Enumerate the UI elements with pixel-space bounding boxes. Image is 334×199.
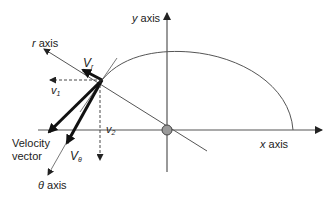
v2-label: v2 bbox=[106, 124, 115, 136]
v-theta-arrow bbox=[67, 80, 102, 143]
origin-marker bbox=[162, 125, 172, 135]
v-theta-label: Vθ bbox=[70, 150, 82, 163]
x-axis-word: axis bbox=[266, 138, 289, 150]
theta-axis-label: θ axis bbox=[38, 180, 67, 191]
v-theta-sub: θ bbox=[78, 156, 82, 163]
velocity-label-line1: Velocity bbox=[12, 137, 50, 150]
r-axis-word: axis bbox=[36, 37, 59, 49]
theta-axis-word: axis bbox=[44, 179, 67, 191]
v1-label: v1 bbox=[51, 85, 60, 97]
diagram-svg bbox=[0, 0, 334, 199]
v-r-main: V bbox=[83, 56, 91, 70]
velocity-label-line2: vector bbox=[12, 150, 50, 163]
r-axis-line bbox=[44, 49, 207, 151]
v-theta-main: V bbox=[70, 149, 78, 163]
v-r-sub: r bbox=[91, 63, 93, 70]
y-axis-label: y axis bbox=[132, 13, 160, 24]
velocity-vector-label: Velocity vector bbox=[12, 137, 50, 163]
diagram-canvas: y axis r axis Vr v1 v2 Velocity vector V… bbox=[0, 0, 334, 199]
v2-sub: 2 bbox=[112, 129, 116, 136]
trajectory-curve bbox=[102, 51, 293, 130]
x-axis-label: x axis bbox=[260, 139, 288, 150]
r-axis-label: r axis bbox=[32, 38, 58, 49]
v-r-label: Vr bbox=[83, 57, 93, 70]
y-axis-word: axis bbox=[138, 12, 161, 24]
v1-sub: 1 bbox=[57, 90, 61, 97]
